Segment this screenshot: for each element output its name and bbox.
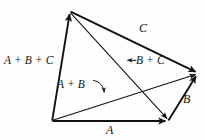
label-a-plus-b: A + B (57, 79, 85, 91)
label-a-plus-b-plus-c: A + B + C (4, 55, 53, 67)
vector-diagram-canvas (0, 0, 205, 140)
label-vector-a: A (106, 124, 113, 136)
vector-line-a-plus-b-plus-c (52, 14, 69, 120)
ab-curved-pointer-icon (94, 81, 105, 93)
label-vector-b: B (183, 93, 190, 105)
vector-diagram-figure: A + B + C A + B B + C C B A (0, 0, 205, 140)
label-b-plus-c: B + C (136, 55, 165, 67)
vector-line-c (71, 12, 196, 72)
label-vector-c: C (139, 22, 147, 34)
